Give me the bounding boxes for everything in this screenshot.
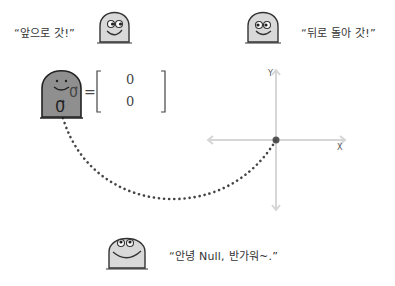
x-axis-label: X (337, 143, 342, 152)
greeting-speech: “안녕 Null, 반가워~.” (169, 247, 278, 263)
backward-speech: “뒤로 돌아 갓!” (301, 24, 376, 40)
backward-character (245, 13, 281, 44)
dotted-path (63, 118, 276, 199)
matrix-entry-top: 0 (126, 72, 134, 87)
diagram-canvas (0, 0, 395, 286)
matrix-entry-bottom: 0 (126, 94, 134, 109)
equation-vector: 0⃗ (69, 84, 78, 100)
zero-vector-label: 0⃗ (55, 97, 65, 116)
forward-character (97, 13, 132, 44)
equation-equals: = (84, 84, 96, 100)
forward-speech: “앞으로 갓!” (14, 24, 75, 40)
greeting-character (106, 239, 148, 270)
y-axis-label: Y (268, 69, 273, 78)
